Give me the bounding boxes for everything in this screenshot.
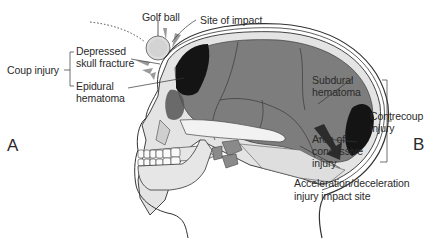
head-injury-diagram: Golf ball Site of impact Coup injury Dep…	[0, 0, 435, 240]
label-concussive-2: concussive	[312, 145, 363, 157]
teeth	[138, 148, 180, 166]
label-depressed-fracture-2: skull fracture	[76, 57, 134, 69]
label-golf-ball: Golf ball	[142, 11, 180, 23]
label-epidural-2: hematoma	[76, 92, 125, 104]
label-subdural-2: hematoma	[312, 86, 361, 98]
panel-label-b: B	[413, 135, 424, 155]
label-coup-injury: Coup injury	[7, 64, 59, 76]
label-site-of-impact: Site of impact	[200, 14, 262, 26]
label-subdural-1: Subdural	[312, 74, 353, 86]
label-acceleration-2: injury impact site	[294, 190, 370, 202]
label-epidural-1: Epidural	[76, 80, 114, 92]
panel-label-a: A	[7, 136, 18, 156]
trajectory-dotted-line	[90, 22, 145, 42]
label-contrecoup-2: injury	[370, 122, 395, 134]
label-concussive-3: injury	[312, 157, 337, 169]
label-depressed-fracture-1: Depressed	[76, 45, 126, 57]
label-acceleration-1: Acceleration/deceleration	[294, 177, 409, 189]
label-concussive-1: Area of	[312, 133, 345, 145]
label-contrecoup-1: Contrecoup	[370, 110, 423, 122]
